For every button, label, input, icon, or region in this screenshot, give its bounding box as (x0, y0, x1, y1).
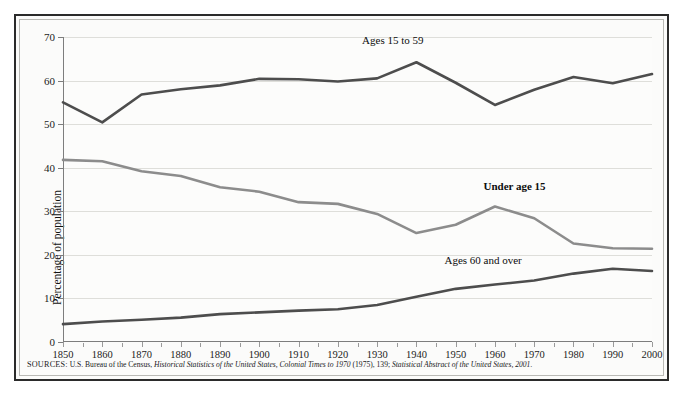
x-tick-1900 (259, 342, 260, 347)
x-tick-label-1910: 1910 (288, 349, 309, 360)
figure-container: Percentage of population 010203040506070… (0, 0, 683, 407)
x-tick-1890 (220, 342, 221, 347)
x-tick-1860 (102, 342, 103, 347)
series-line-ages-15-to-59 (63, 62, 652, 122)
source-italic-2: Statistical Abstract of the United State… (392, 360, 532, 369)
x-tick-label-1980: 1980 (563, 349, 584, 360)
x-tick-minor-1880 (200, 343, 201, 347)
plot-area: Percentage of population 010203040506070… (63, 37, 652, 342)
x-tick-label-2000: 2000 (642, 349, 663, 360)
x-tick-minor-1960 (515, 343, 516, 347)
y-tick-label-50: 50 (44, 118, 55, 130)
x-tick-minor-1970 (554, 343, 555, 347)
source-label: SOURCES: (27, 360, 68, 369)
x-tick-minor-1900 (279, 343, 280, 347)
x-tick-label-1880: 1880 (170, 349, 191, 360)
x-tick-minor-1850 (83, 343, 84, 347)
series-label-ages-60-and-over: Ages 60 and over (444, 254, 521, 266)
x-tick-label-1850: 1850 (53, 349, 74, 360)
source-italic-1: Historical Statistics of the United Stat… (154, 360, 351, 369)
x-tick-1960 (495, 342, 496, 347)
y-tick-label-30: 30 (44, 205, 55, 217)
x-tick-2000 (652, 342, 653, 347)
y-tick-label-60: 60 (44, 75, 55, 87)
y-tick-label-40: 40 (44, 162, 55, 174)
series-label-ages-15-to-59: Ages 15 to 59 (362, 34, 423, 46)
x-tick-label-1860: 1860 (92, 349, 113, 360)
x-tick-minor-1950 (475, 343, 476, 347)
x-tick-1970 (534, 342, 535, 347)
x-tick-minor-1990 (632, 343, 633, 347)
x-tick-1930 (377, 342, 378, 347)
x-tick-minor-1930 (397, 343, 398, 347)
series-line-under-age-15 (63, 160, 652, 249)
y-tick-label-20: 20 (44, 249, 55, 261)
x-tick-label-1870: 1870 (131, 349, 152, 360)
x-tick-1870 (142, 342, 143, 347)
x-tick-minor-1870 (161, 343, 162, 347)
x-tick-minor-1890 (240, 343, 241, 347)
x-tick-label-1930: 1930 (367, 349, 388, 360)
x-tick-1850 (63, 342, 64, 347)
source-note: SOURCES: U.S. Bureau of the Census, Hist… (27, 360, 653, 370)
series-lines (63, 37, 652, 342)
series-label-under-age-15: Under age 15 (483, 180, 545, 192)
y-tick-label-0: 0 (50, 336, 56, 348)
chart-frame: Percentage of population 010203040506070… (14, 14, 669, 381)
x-tick-label-1970: 1970 (524, 349, 545, 360)
x-tick-label-1950: 1950 (445, 349, 466, 360)
x-tick-minor-1980 (593, 343, 594, 347)
x-tick-minor-1860 (122, 343, 123, 347)
x-tick-1920 (338, 342, 339, 347)
x-tick-minor-1920 (358, 343, 359, 347)
x-tick-label-1990: 1990 (602, 349, 623, 360)
x-tick-label-1900: 1900 (249, 349, 270, 360)
x-tick-1910 (299, 342, 300, 347)
x-tick-1950 (456, 342, 457, 347)
x-tick-1980 (573, 342, 574, 347)
y-tick-label-10: 10 (44, 292, 55, 304)
y-tick-label-70: 70 (44, 31, 55, 43)
x-tick-label-1960: 1960 (484, 349, 505, 360)
x-tick-minor-1910 (318, 343, 319, 347)
series-line-ages-60-and-over (63, 269, 652, 324)
x-tick-label-1890: 1890 (210, 349, 231, 360)
x-tick-minor-1940 (436, 343, 437, 347)
x-tick-1940 (416, 342, 417, 347)
x-tick-label-1940: 1940 (406, 349, 427, 360)
x-tick-label-1920: 1920 (327, 349, 348, 360)
source-text-1: U.S. Bureau of the Census, (68, 360, 154, 369)
source-text-2: (1975), 139; (351, 360, 392, 369)
x-tick-1880 (181, 342, 182, 347)
x-tick-1990 (613, 342, 614, 347)
